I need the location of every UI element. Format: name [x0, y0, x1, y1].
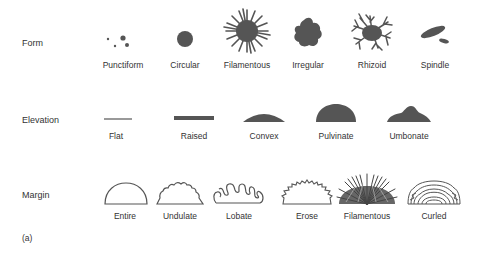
entire-icon: [103, 180, 149, 206]
filamentous-margin-icon: [336, 172, 398, 206]
umbonate-icon: [385, 104, 433, 124]
circular-icon: [170, 28, 200, 52]
convex-icon: [242, 110, 286, 124]
row-label-form: Form: [22, 38, 43, 48]
caption-spindle: Spindle: [395, 60, 475, 70]
curled-icon: [406, 178, 462, 206]
row-label-elevation: Elevation: [22, 115, 59, 125]
lobate-icon: [212, 179, 266, 206]
filamentous-form-icon: [222, 8, 272, 54]
caption-pulvinate: Pulvinate: [296, 131, 376, 141]
flat-icon: [103, 116, 133, 122]
row-label-margin: Margin: [22, 190, 50, 200]
undulate-icon: [155, 179, 205, 206]
caption-flat: Flat: [76, 131, 156, 141]
punctiform-icon: [100, 30, 140, 52]
spindle-icon: [415, 22, 455, 46]
caption-raised: Raised: [154, 131, 234, 141]
panel-label: (a): [22, 233, 32, 243]
caption-umbonate: Umbonate: [369, 131, 449, 141]
caption-curled: Curled: [394, 211, 474, 221]
pulvinate-icon: [314, 102, 358, 124]
raised-icon: [173, 114, 215, 122]
irregular-icon: [290, 16, 326, 50]
rhizoid-icon: [350, 12, 394, 52]
caption-convex: Convex: [224, 131, 304, 141]
erose-icon: [281, 178, 333, 206]
